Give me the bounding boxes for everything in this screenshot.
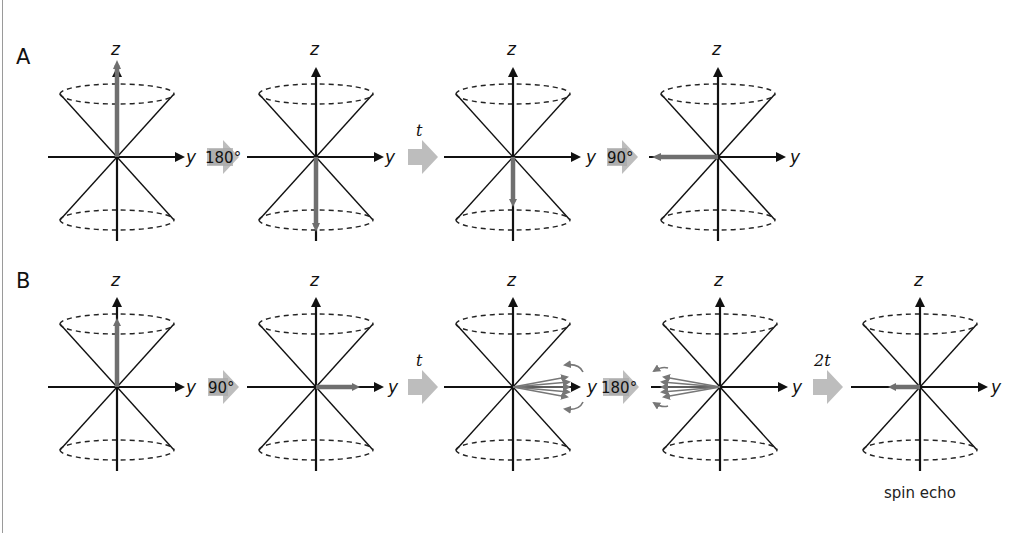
delay-arrow-icon <box>408 140 438 174</box>
diagram-b1 <box>48 299 183 471</box>
z-axis-label: z <box>711 39 722 59</box>
delay-arrow-icon <box>408 370 438 404</box>
panel-label-a: A <box>16 45 31 69</box>
y-axis-label: y <box>791 377 803 397</box>
y-axis-label: y <box>384 147 396 167</box>
diagram-a3 <box>444 69 579 241</box>
step-label-a1: 180° <box>205 149 241 167</box>
y-axis-label: y <box>185 147 197 167</box>
y-axis-label: y <box>586 377 598 397</box>
z-axis-label: z <box>110 270 121 290</box>
z-axis-label: z <box>913 270 924 290</box>
z-axis-label: z <box>506 270 517 290</box>
dephase-arrow-icon <box>565 365 583 372</box>
diagram-a2 <box>247 69 382 241</box>
z-axis-label: z <box>506 39 517 59</box>
rephase-arrow-icon <box>654 367 668 371</box>
step-label-b3: 180° <box>601 379 637 397</box>
spin-echo-caption: spin echo <box>884 484 956 502</box>
delay-arrow-icon <box>813 370 843 404</box>
z-axis-label: z <box>309 39 320 59</box>
step-label-b4: 2t <box>813 351 831 370</box>
rephase-arrow-icon <box>654 403 668 407</box>
panel-label-b: B <box>16 269 30 293</box>
y-axis-label: y <box>585 147 597 167</box>
dephase-arrow-icon <box>565 402 583 409</box>
step-label-b1: 90° <box>208 379 235 397</box>
step-label-b2: t <box>416 351 423 370</box>
diagram-a4 <box>649 69 784 241</box>
diagram-b3 <box>444 299 583 471</box>
spin-echo-figure: A z y 180° z y t z y 90° z y B <box>0 0 1036 533</box>
diagram-a1 <box>48 60 183 241</box>
z-axis-label: z <box>309 270 320 290</box>
diagram-b4 <box>651 299 786 471</box>
z-axis-label: z <box>713 270 724 290</box>
diagram-b5 <box>851 299 986 471</box>
step-label-a3: 90° <box>607 149 634 167</box>
step-label-a2: t <box>416 121 423 140</box>
y-axis-label: y <box>185 377 197 397</box>
z-axis-label: z <box>110 39 121 59</box>
y-axis-label: y <box>789 147 801 167</box>
y-axis-label: y <box>387 377 399 397</box>
y-axis-label: y <box>990 377 1002 397</box>
diagram-b2 <box>247 299 382 471</box>
